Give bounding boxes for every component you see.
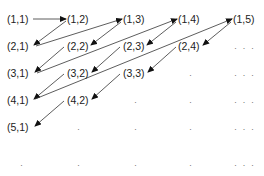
ellipsis: ·	[77, 160, 82, 170]
node-1-3: (1,3)	[123, 13, 145, 25]
arrow-32-to-41	[34, 74, 64, 99]
node-5-1: (5,1)	[7, 121, 29, 133]
node-4-2: (4,2)	[67, 94, 89, 106]
diagonal-enumeration-diagram: (1,1)(1,2)(1,3)(1,4)(1,5)(2,1)(2,2)(2,3)…	[0, 0, 264, 176]
arrow-33-to-42	[92, 74, 120, 99]
ellipsis: ·	[189, 124, 194, 134]
node-3-2: (3,2)	[67, 67, 89, 79]
node-4-1: (4,1)	[7, 94, 29, 106]
node-1-2: (1,2)	[67, 13, 89, 25]
arrow-14-to-23	[147, 22, 176, 45]
node-1-1: (1,1)	[7, 13, 29, 25]
arrow-42-to-51	[35, 101, 64, 126]
ellipsis: ·	[20, 160, 25, 170]
node-2-4: (2,4)	[178, 40, 200, 52]
ellipsis: · · ·	[234, 70, 256, 80]
node-1-5: (1,5)	[233, 13, 255, 25]
node-2-2: (2,2)	[67, 40, 89, 52]
node-3-1: (3,1)	[7, 67, 29, 79]
node-3-3: (3,3)	[123, 67, 145, 79]
node-2-3: (2,3)	[123, 40, 145, 52]
ellipsis: ·	[77, 124, 82, 134]
ellipsis: · · ·	[234, 124, 256, 134]
ellipsis: ·	[134, 97, 139, 107]
node-2-1: (2,1)	[7, 40, 29, 52]
arrow-41-to-15	[35, 19, 232, 99]
ellipsis: ·	[189, 97, 194, 107]
ellipsis: · · ·	[234, 43, 256, 53]
arrow-13-to-22	[91, 22, 121, 45]
ellipsis: · · ·	[234, 160, 256, 170]
ellipsis: ·	[189, 70, 194, 80]
arrow-24-to-33	[148, 47, 176, 72]
ellipsis: · · ·	[234, 97, 256, 107]
ellipsis: ·	[189, 160, 194, 170]
ellipsis: ·	[134, 160, 139, 170]
ellipsis: ·	[134, 124, 139, 134]
node-1-4: (1,4)	[178, 13, 200, 25]
arrow-23-to-32	[92, 47, 120, 72]
node-layer: (1,1)(1,2)(1,3)(1,4)(1,5)(2,1)(2,2)(2,3)…	[7, 13, 255, 133]
ellipsis-layer: · · ··· · ···· · ····· · ······ · ·	[20, 43, 256, 170]
